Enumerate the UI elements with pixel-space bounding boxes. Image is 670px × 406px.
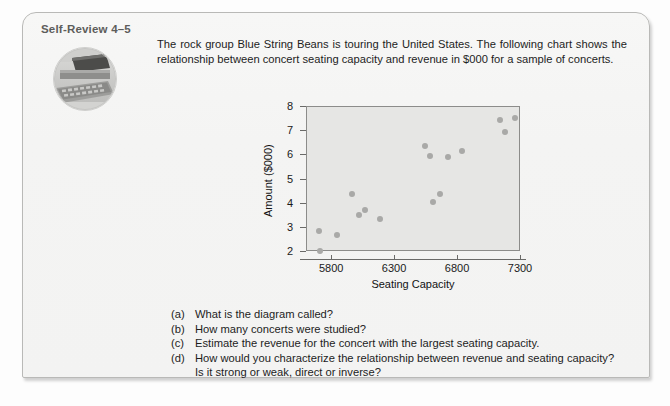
x-tick-mark xyxy=(457,255,458,260)
question-item: (d)How would you characterize the relati… xyxy=(171,351,641,380)
y-tick-mark xyxy=(300,154,306,155)
data-point xyxy=(362,207,368,213)
data-point xyxy=(427,153,433,159)
intro-paragraph: The rock group Blue String Beans is tour… xyxy=(157,37,627,66)
question-text: What is the diagram called? xyxy=(195,307,641,322)
question-item: (b)How many concerts were studied? xyxy=(171,322,641,337)
data-point xyxy=(334,232,340,238)
y-tick-mark xyxy=(300,130,306,131)
data-point xyxy=(437,191,443,197)
y-tick-label: 3 xyxy=(279,221,293,233)
x-tick-label: 6800 xyxy=(445,262,469,274)
data-point xyxy=(317,248,323,254)
x-tick-label: 5800 xyxy=(319,262,343,274)
computer-photo-icon xyxy=(54,48,116,110)
question-text-line: What is the diagram called? xyxy=(195,308,333,320)
x-axis-label: Seating Capacity xyxy=(371,278,454,290)
y-tick-mark xyxy=(300,106,306,107)
y-tick-mark xyxy=(300,251,306,252)
data-point xyxy=(356,212,362,218)
question-text: How many concerts were studied? xyxy=(195,322,641,337)
question-text: How would you characterize the relations… xyxy=(195,351,641,380)
plot-area xyxy=(306,106,520,251)
x-axis-line xyxy=(300,259,526,260)
self-review-card: Self-Review 4–5 xyxy=(22,12,650,378)
y-tick-label: 5 xyxy=(279,173,293,185)
x-tick-mark xyxy=(520,255,521,260)
self-review-title: Self-Review 4–5 xyxy=(41,23,131,35)
data-point xyxy=(430,199,436,205)
y-tick-label: 6 xyxy=(279,148,293,160)
data-point xyxy=(497,117,503,123)
y-tick-label: 8 xyxy=(279,100,293,112)
questions-list: (a)What is the diagram called?(b)How man… xyxy=(171,307,641,380)
y-tick-label: 7 xyxy=(279,124,293,136)
question-text: Estimate the revenue for the concert wit… xyxy=(195,336,641,351)
question-text-line: How would you characterize the relations… xyxy=(195,352,614,364)
question-marker: (a) xyxy=(171,307,195,322)
x-tick-mark xyxy=(394,255,395,260)
x-tick-label: 7300 xyxy=(508,262,532,274)
question-text-continuation: Is it strong or weak, direct or inverse? xyxy=(195,365,641,380)
intro-line-1: The rock group Blue String Beans is tour… xyxy=(157,38,608,50)
computer-photo-thumbnail xyxy=(53,47,117,111)
scatter-chart: 23456785800630068007300 Amount ($000) Se… xyxy=(229,93,539,283)
intro-line-3: concerts. xyxy=(568,53,613,65)
y-tick-mark xyxy=(300,203,306,204)
question-text-line: How many concerts were studied? xyxy=(195,323,366,335)
data-point xyxy=(445,154,451,160)
data-point xyxy=(459,148,465,154)
data-point xyxy=(349,191,355,197)
question-marker: (b) xyxy=(171,322,195,337)
data-point xyxy=(422,143,428,149)
y-tick-label: 4 xyxy=(279,197,293,209)
y-tick-mark xyxy=(300,227,306,228)
y-axis-label: Amount ($000) xyxy=(262,144,274,217)
question-text-line: Estimate the revenue for the concert wit… xyxy=(195,337,539,349)
data-point xyxy=(316,228,322,234)
x-tick-mark xyxy=(331,255,332,260)
data-point xyxy=(502,129,508,135)
question-item: (a)What is the diagram called? xyxy=(171,307,641,322)
data-point xyxy=(512,115,518,121)
question-marker: (d) xyxy=(171,351,195,380)
data-point xyxy=(377,216,383,222)
y-tick-mark xyxy=(300,179,306,180)
question-marker: (c) xyxy=(171,336,195,351)
x-tick-label: 6300 xyxy=(382,262,406,274)
question-item: (c)Estimate the revenue for the concert … xyxy=(171,336,641,351)
page-root: Self-Review 4–5 xyxy=(0,0,670,406)
y-tick-label: 2 xyxy=(279,245,293,257)
